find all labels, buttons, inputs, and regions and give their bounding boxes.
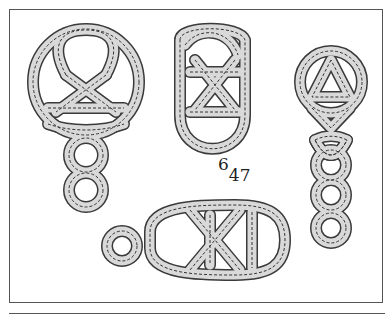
knot-circle-top-left xyxy=(33,29,139,207)
knot-diagrams xyxy=(0,0,390,316)
knot-label: 647 xyxy=(218,162,250,179)
knot-horizontal-bottom xyxy=(107,205,285,275)
knot-label-subscript: 47 xyxy=(229,165,251,185)
knot-circle-right xyxy=(300,51,362,243)
knot-oval-middle xyxy=(180,29,245,149)
knot-label-base: 6 xyxy=(218,154,229,174)
